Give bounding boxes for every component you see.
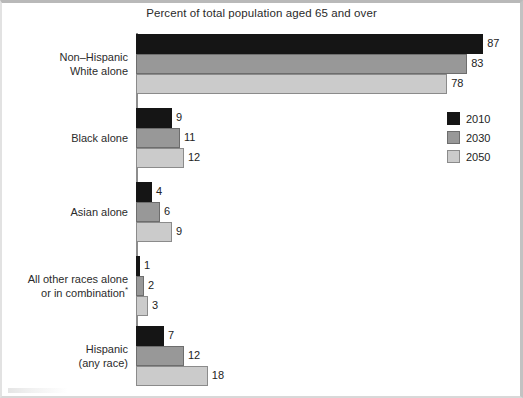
bar-value-label: 83	[471, 57, 483, 69]
bar-2030-group-4	[136, 276, 144, 296]
chart-figure: Percent of total population aged 65 and …	[0, 0, 523, 398]
bar-2010-group-4	[136, 256, 140, 276]
bar-value-label: 78	[451, 77, 463, 89]
category-label-5: Hispanic(any race)	[0, 342, 128, 370]
bar-value-label: 1	[144, 259, 150, 271]
legend-label: 2010	[466, 113, 490, 125]
legend-swatch-icon	[447, 112, 460, 125]
bar-2010-group-5	[136, 326, 164, 346]
bar-value-label: 9	[176, 225, 182, 237]
legend-item-2010: 2010	[447, 110, 490, 127]
bar-2050-group-1	[136, 74, 447, 94]
bar-value-label: 87	[487, 37, 499, 49]
footnote-marker: *	[125, 285, 128, 294]
bar-value-label: 3	[152, 299, 158, 311]
category-label-line: Asian alone	[0, 205, 128, 219]
bar-value-label: 6	[164, 205, 170, 217]
bar-value-label: 18	[212, 369, 224, 381]
bar-2030-group-1	[136, 54, 467, 74]
category-label-line: (any race)	[0, 356, 128, 370]
plot-area: 878378Non–HispanicWhite alone91112Black …	[0, 0, 523, 398]
bar-2030-group-2	[136, 128, 180, 148]
bar-2030-group-3	[136, 202, 160, 222]
bar-value-label: 12	[188, 349, 200, 361]
category-label-1: Non–HispanicWhite alone	[0, 50, 128, 78]
category-label-line: Black alone	[0, 131, 128, 145]
category-label-line: Hispanic	[0, 342, 128, 356]
category-label-4: All other races aloneor in combination*	[0, 272, 128, 300]
bar-value-label: 9	[176, 111, 182, 123]
category-label-line: All other races alone	[0, 272, 128, 286]
bar-2010-group-1	[136, 34, 483, 54]
bar-2050-group-5	[136, 366, 208, 386]
bar-value-label: 7	[168, 329, 174, 341]
bar-2030-group-5	[136, 346, 184, 366]
legend-swatch-icon	[447, 150, 460, 163]
bar-value-label: 2	[148, 279, 154, 291]
category-label-line: White alone	[0, 64, 128, 78]
bar-2050-group-4	[136, 296, 148, 316]
legend-label: 2030	[466, 132, 490, 144]
category-label-line: Non–Hispanic	[0, 50, 128, 64]
bar-value-label: 11	[184, 131, 195, 143]
legend-label: 2050	[466, 151, 490, 163]
legend-item-2050: 2050	[447, 148, 490, 165]
bar-2010-group-2	[136, 108, 172, 128]
bar-value-label: 12	[188, 151, 200, 163]
chart-legend: 201020302050	[447, 110, 490, 167]
category-label-2: Black alone	[0, 131, 128, 145]
category-label-3: Asian alone	[0, 205, 128, 219]
bar-value-label: 4	[156, 185, 162, 197]
category-label-line: or in combination*	[0, 286, 128, 300]
bar-2050-group-3	[136, 222, 172, 242]
bar-2010-group-3	[136, 182, 152, 202]
legend-item-2030: 2030	[447, 129, 490, 146]
legend-swatch-icon	[447, 131, 460, 144]
bar-2050-group-2	[136, 148, 184, 168]
footnote-smudge	[8, 388, 68, 393]
